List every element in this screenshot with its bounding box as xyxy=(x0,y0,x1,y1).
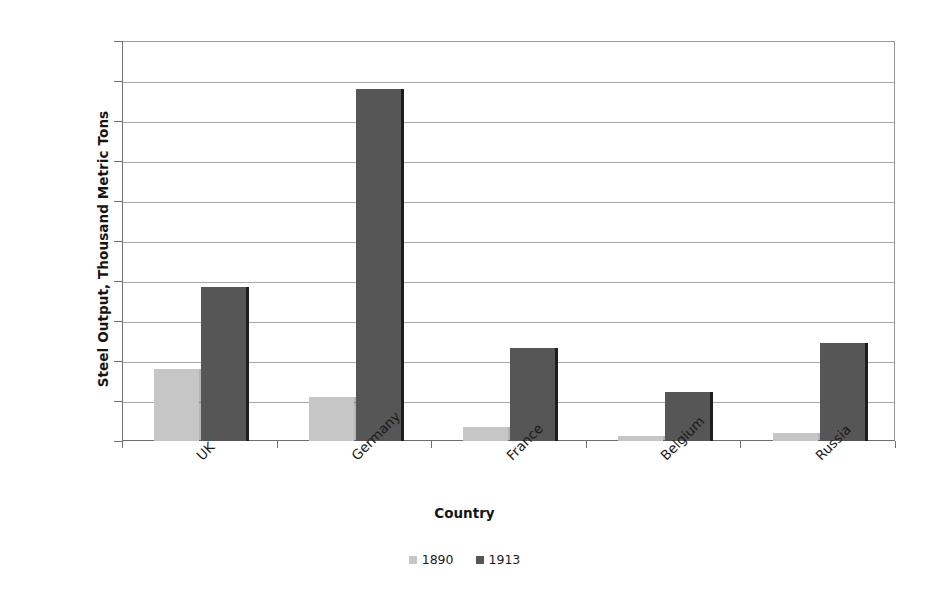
y-tick-mark xyxy=(114,281,122,282)
y-axis-title: Steel Output, Thousand Metric Tons xyxy=(95,34,111,464)
y-tick-mark xyxy=(114,361,122,362)
legend-label: 1913 xyxy=(489,552,521,567)
x-tick-mark xyxy=(431,441,432,448)
legend-item-1913[interactable]: 1913 xyxy=(476,552,521,567)
bar-fill xyxy=(154,369,199,441)
y-tick-mark xyxy=(114,121,122,122)
y-tick-mark xyxy=(114,441,122,442)
bar-fill xyxy=(463,427,508,441)
y-tick-mark xyxy=(114,401,122,402)
bar-fill xyxy=(201,287,246,441)
legend-swatch-1913 xyxy=(476,556,484,564)
bar-germany-1913[interactable] xyxy=(356,89,401,441)
y-tick-mark xyxy=(114,161,122,162)
legend-item-1890[interactable]: 1890 xyxy=(409,552,454,567)
bar-group xyxy=(432,42,587,441)
y-tick-mark xyxy=(114,81,122,82)
bar-france-1890[interactable] xyxy=(463,427,508,441)
bar-belgium-1890[interactable] xyxy=(618,436,663,441)
bar-group xyxy=(741,42,896,441)
y-tick-mark xyxy=(114,201,122,202)
bars-layer xyxy=(123,42,894,441)
x-tick-mark xyxy=(277,441,278,448)
y-tick-mark xyxy=(114,241,122,242)
x-tick-mark xyxy=(122,441,123,448)
chart-legend: 18901913 xyxy=(0,552,929,567)
bar-chart: Steel Output, Thousand Metric Tons 02000… xyxy=(0,0,929,591)
bar-group xyxy=(123,42,278,441)
bar-germany-1890[interactable] xyxy=(309,397,354,441)
legend-swatch-1890 xyxy=(409,556,417,564)
bar-uk-1890[interactable] xyxy=(154,369,199,441)
bar-fill xyxy=(356,89,401,441)
x-tick-mark xyxy=(740,441,741,448)
y-tick-mark xyxy=(114,321,122,322)
bar-group xyxy=(278,42,433,441)
bar-group xyxy=(587,42,742,441)
bar-fill xyxy=(309,397,354,441)
bar-uk-1913[interactable] xyxy=(201,287,246,441)
bar-fill xyxy=(773,433,818,441)
bar-fill xyxy=(618,436,663,441)
x-tick-label-uk: UK xyxy=(193,439,218,464)
x-tick-mark xyxy=(895,441,896,448)
bar-russia-1890[interactable] xyxy=(773,433,818,441)
x-tick-mark xyxy=(586,441,587,448)
legend-label: 1890 xyxy=(422,552,454,567)
y-tick-mark xyxy=(114,41,122,42)
x-axis-title: Country xyxy=(0,505,929,521)
